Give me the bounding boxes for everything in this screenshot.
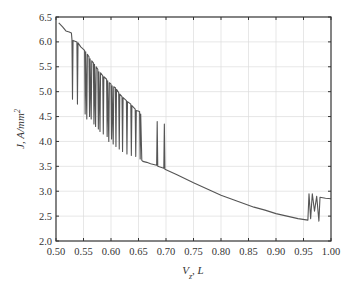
y-tick-label: 5.0 (39, 86, 52, 97)
y-tick-label: 3.0 (39, 186, 52, 197)
x-tick-label: 0.95 (294, 246, 312, 257)
y-tick-label: 6.5 (39, 12, 52, 23)
y-tick-label: 3.5 (39, 161, 52, 172)
y-axis-label: J, A/mm2 (13, 109, 27, 149)
chart: 0.500.550.600.650.700.750.800.850.900.95… (0, 0, 354, 286)
x-tick-label: 1.00 (322, 246, 340, 257)
y-axis-tick-labels: 2.02.53.03.54.04.55.05.56.06.5 (39, 12, 52, 247)
y-tick-label: 6.0 (39, 36, 52, 47)
y-tick-label: 2.5 (39, 211, 52, 222)
x-tick-label: 0.60 (102, 246, 120, 257)
y-tick-label: 2.0 (39, 236, 52, 247)
x-tick-label: 0.80 (212, 246, 230, 257)
y-tick-label: 5.5 (39, 61, 52, 72)
x-tick-label: 0.70 (157, 246, 175, 257)
y-tick-label: 4.5 (39, 111, 52, 122)
x-tick-label: 0.85 (239, 246, 257, 257)
x-tick-label: 0.75 (184, 246, 202, 257)
x-axis-tick-labels: 0.500.550.600.650.700.750.800.850.900.95… (47, 246, 340, 257)
x-tick-label: 0.50 (47, 246, 65, 257)
x-axis-label: Vz, L (182, 264, 203, 281)
y-tick-label: 4.0 (39, 136, 52, 147)
x-tick-label: 0.90 (267, 246, 285, 257)
x-tick-label: 0.55 (74, 246, 92, 257)
grid-lines (56, 17, 331, 241)
x-tick-label: 0.65 (129, 246, 147, 257)
